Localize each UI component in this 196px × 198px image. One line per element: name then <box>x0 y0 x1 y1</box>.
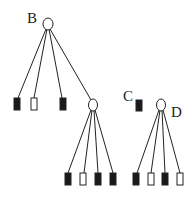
connector-lines <box>18 29 180 173</box>
label-c: C <box>123 88 133 104</box>
label-d: D <box>171 104 182 120</box>
pedigree-svg: B C D <box>0 0 196 198</box>
individual-d4-square <box>177 173 183 185</box>
individual-c-square-affected <box>136 100 142 111</box>
individual-b4-2-square <box>80 173 86 185</box>
label-b: B <box>27 10 37 26</box>
individual-b1-square-affected <box>14 98 20 110</box>
individual-b4-circle <box>89 99 98 111</box>
individual-b4-4-square-affected <box>110 173 116 185</box>
individual-b2-square <box>31 98 37 110</box>
individual-d-circle <box>157 99 166 111</box>
pedigree-diagram: B C D <box>0 0 196 198</box>
individual-d2-square <box>148 173 154 185</box>
individual-b4-1-square-affected <box>65 173 71 185</box>
individual-b4-3-square-affected <box>95 173 101 185</box>
individual-b3-square-affected <box>60 98 66 110</box>
individual-b-circle <box>43 18 53 30</box>
individual-d3-square-affected <box>162 173 168 185</box>
individual-d1-square-affected <box>133 173 139 185</box>
